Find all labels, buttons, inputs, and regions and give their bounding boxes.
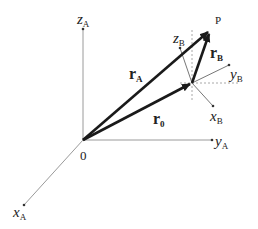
point-p-label: P <box>215 14 221 26</box>
frame-b-guides <box>180 30 238 100</box>
x-a-axis <box>24 140 83 205</box>
z-a-label: zA <box>76 11 90 29</box>
vector-r-a <box>83 32 208 140</box>
x-b-axis <box>192 83 213 106</box>
origin-label: 0 <box>80 148 87 163</box>
z-b-label: zB <box>172 30 185 48</box>
r-a-label: rA <box>129 65 143 84</box>
y-a-label: yA <box>213 133 229 151</box>
r-b-label: rB <box>210 44 223 63</box>
frame-a-axes <box>24 29 212 205</box>
x-a-label: xA <box>12 204 27 222</box>
r-0-label: r0 <box>153 110 165 129</box>
y-b-label: yB <box>228 66 243 84</box>
x-b-label: xB <box>209 108 223 126</box>
frame-vector-diagram: zA yA xA 0 P zB yB xB rA rB r0 <box>0 0 258 229</box>
vectors <box>83 32 209 140</box>
